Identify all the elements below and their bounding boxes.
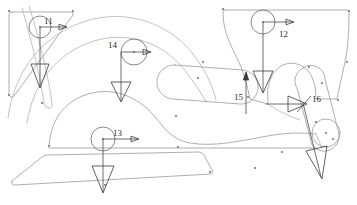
- engineering-drawing-svg: 11 12 13 14 15 16: [0, 0, 357, 205]
- load-marker-11[interactable]: [29, 16, 67, 88]
- arc-member-inner: [27, 37, 206, 123]
- vertex-dot: [72, 10, 74, 12]
- vertex-dot: [254, 167, 256, 169]
- load-marker-12[interactable]: [251, 10, 294, 93]
- plate-connector: [316, 134, 322, 148]
- vertex-dot: [8, 10, 10, 12]
- vertex-dot: [222, 8, 224, 10]
- vertex-dot: [197, 77, 199, 79]
- right-tail-curve: [268, 104, 300, 120]
- vertex-dot: [41, 102, 43, 104]
- label-12: 12: [279, 29, 288, 39]
- vertex-dot: [346, 61, 348, 63]
- vertex-dot: [337, 99, 339, 101]
- vertex-dot: [175, 115, 177, 117]
- geometry-group: [8, 6, 349, 185]
- load-marker-15[interactable]: [243, 72, 248, 114]
- lower-plate-outline: [12, 152, 213, 185]
- vertex-dot: [332, 138, 334, 140]
- label-group: 11 12 13 14 15 16: [44, 16, 322, 138]
- vertex-dot: [247, 96, 249, 98]
- vertex-dot: [177, 146, 179, 148]
- label-13: 13: [113, 128, 123, 138]
- vertex-dot: [308, 66, 310, 68]
- vertex-dot: [48, 145, 50, 147]
- label-16: 16: [312, 94, 322, 104]
- vertex-dot: [202, 61, 204, 63]
- vertex-dot: [281, 151, 283, 153]
- vertex-dot: [209, 171, 211, 173]
- vertex-dot: [325, 132, 327, 134]
- label-15: 15: [234, 92, 244, 102]
- vertex-dot: [8, 94, 10, 96]
- vertex-dot: [315, 121, 317, 123]
- drawing-canvas: 11 12 13 14 15 16: [0, 0, 357, 205]
- vertex-dot: [348, 10, 350, 12]
- vertex-dot: [321, 82, 323, 84]
- label-11: 11: [44, 16, 53, 26]
- label-14: 14: [108, 40, 118, 50]
- arc-member-outer: [8, 16, 216, 118]
- vertex-dot-group: [8, 8, 350, 186]
